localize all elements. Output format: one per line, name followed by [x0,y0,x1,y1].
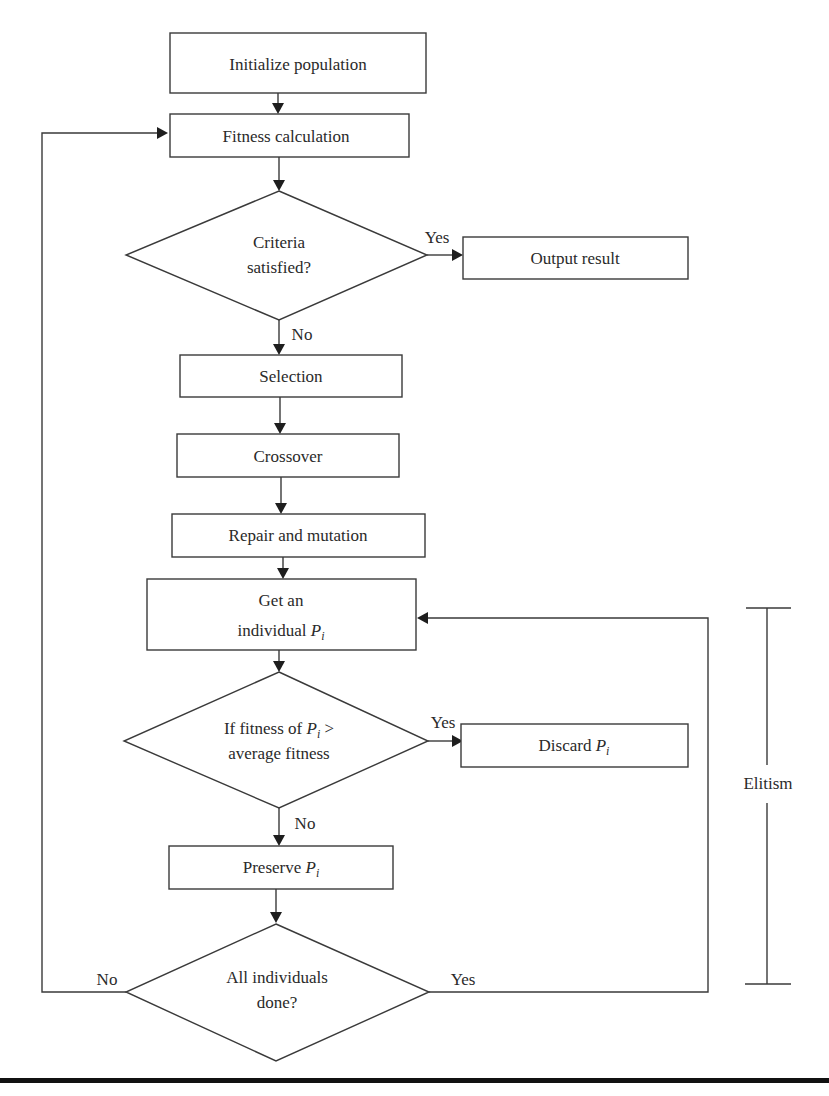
decision-label-line1: Criteria [253,233,305,252]
edge-label-no: No [97,970,118,989]
node-get-individual: Get an individual Pi [147,579,416,650]
node-label: Crossover [254,447,323,466]
node-repair-and-mutation: Repair and mutation [172,514,425,557]
bottom-rule [0,1078,829,1083]
arrow-get-to-iffit [273,650,285,672]
node-label-line2: individual Pi [238,621,325,643]
node-label: Preserve Pi [243,858,320,880]
edge-label-yes: Yes [431,713,456,732]
ga-flowchart: Initialize population Fitness calculatio… [0,0,829,1096]
node-discard: Discard Pi [461,724,688,767]
decision-label-line2: satisfied? [247,258,311,277]
arrow-criteria-yes-to-output: Yes [425,228,463,261]
arrow-selection-to-crossover [274,397,286,434]
edge-label-no: No [292,325,313,344]
decision-label-line2: average fitness [228,744,329,763]
elitism-bracket: Elitism [743,608,792,984]
node-fitness-calculation: Fitness calculation [170,114,409,157]
arrow-criteria-no-to-selection: No [273,320,312,355]
edge-label-yes: Yes [451,970,476,989]
arrow-init-to-fitness [272,93,284,114]
elitism-label: Elitism [743,774,792,793]
node-label: Discard Pi [539,736,610,758]
node-label: Initialize population [229,55,367,74]
node-label: Fitness calculation [222,127,350,146]
decision-criteria-satisfied: Criteria satisfied? [126,191,427,320]
edge-label-no: No [295,814,316,833]
decision-fitness-above-average: If fitness of Pi > average fitness [124,672,428,808]
node-selection: Selection [180,355,402,397]
arrow-repair-to-get [277,557,289,579]
decision-label-line2: done? [257,993,298,1012]
node-preserve: Preserve Pi [169,846,393,889]
decision-label-line1: All individuals [226,968,328,987]
node-label: Repair and mutation [229,526,368,545]
arrow-iffit-yes-to-discard: Yes [428,713,463,747]
arrow-fitness-to-criteria [273,157,285,191]
node-crossover: Crossover [177,434,399,477]
decision-all-individuals-done: All individuals done? [126,924,429,1061]
arrow-crossover-to-repair [275,477,287,514]
node-label: Output result [530,249,620,268]
arrow-alldone-yes-to-get: Yes [417,612,708,992]
edge-label-yes: Yes [425,228,450,247]
node-label-line1: Get an [259,591,304,610]
node-output-result: Output result [463,237,688,279]
arrow-iffit-no-to-preserve: No [273,808,315,846]
arrow-preserve-to-alldone [270,889,282,923]
node-initialize-population: Initialize population [170,33,426,93]
node-label: Selection [259,367,323,386]
